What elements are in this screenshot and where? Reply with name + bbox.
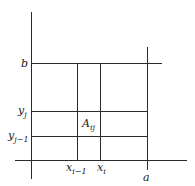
label-y-j-minus-1: yj−1 <box>7 129 29 144</box>
label-a: a <box>143 171 150 184</box>
label-b: b <box>21 57 28 70</box>
label-A-ij: Aij <box>81 117 96 132</box>
grid-diagram: b yj yj−1 Aij xi−1 xi a <box>0 0 195 186</box>
label-y-j: yj <box>17 104 27 119</box>
label-x-i-minus-1: xi−1 <box>66 161 87 176</box>
label-x-i: xi <box>97 161 106 176</box>
